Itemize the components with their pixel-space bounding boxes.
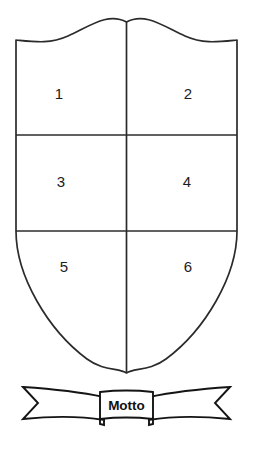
quarter-label-3: 3 xyxy=(57,173,65,190)
quarter-label-2: 2 xyxy=(184,85,192,102)
coat-of-arms-canvas: 1 2 3 4 5 6 Motto xyxy=(0,0,253,454)
motto-text: Motto xyxy=(108,398,145,413)
quarter-label-1: 1 xyxy=(55,85,63,102)
banner-right-wing[interactable] xyxy=(149,387,230,420)
quarter-label-4: 4 xyxy=(183,173,191,190)
banner-right-fold xyxy=(149,419,153,425)
shield-group[interactable]: 1 2 3 4 5 6 xyxy=(16,19,237,373)
coat-of-arms-figure: 1 2 3 4 5 6 Motto xyxy=(0,0,253,454)
quarter-label-6: 6 xyxy=(184,258,192,275)
motto-banner-group[interactable]: Motto xyxy=(23,387,230,425)
banner-left-fold xyxy=(100,419,104,425)
banner-left-wing[interactable] xyxy=(23,387,104,420)
quarter-label-5: 5 xyxy=(60,258,68,275)
